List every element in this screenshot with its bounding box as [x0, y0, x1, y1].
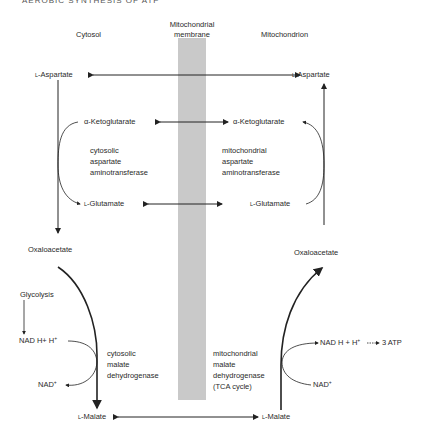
cytosol-glutamate-label: L-Glutamate [84, 199, 124, 209]
mito-nadh-label: NAD H + H+ [320, 338, 360, 348]
mito-aspartate-label: L-Aspartate [292, 70, 330, 80]
mito-malate-label: L-Malate [262, 412, 290, 422]
mito-nad-label: NAD+ [313, 380, 332, 390]
mito-ketoglutarate-label: α-Ketoglutarate [233, 117, 284, 127]
mito-oxaloacetate-label: Oxaloacetate [294, 248, 338, 258]
cytosol-nadh-nad-curve [66, 341, 97, 385]
mito-glutamate-label: L-Glutamate [250, 199, 290, 209]
cytosol-nadh-label: NAD H+ H+ [19, 336, 57, 346]
cytosol-nad-label: NAD+ [38, 380, 57, 390]
cytosolic-aat-enzyme-label: cytosolic aspartate aminotransferase [90, 145, 148, 178]
mitochondrial-aat-enzyme-label: mitochondrial aspartate aminotransferase [222, 145, 280, 178]
mitochondrial-mdh-enzyme-label: mitochondrial malate dehydrogenase (TCA … [213, 348, 265, 392]
cytosol-ketoglutarate-label: α-Ketoglutarate [84, 117, 135, 127]
cytosol-malate-label: L-Malate [78, 412, 106, 422]
cytosolic-aat-curve [58, 122, 80, 204]
cytosol-oxaloacetate-label: Oxaloacetate [28, 245, 72, 255]
mito-nad-nadh-curve [282, 343, 318, 385]
mitochondrial-aat-curve [303, 122, 324, 204]
cytosolic-mdh-enzyme-label: cytosolic malate dehydrogenase [107, 348, 159, 381]
cytosol-aspartate-label: L-Aspartate [35, 70, 73, 80]
glycolysis-label: Glycolysis [20, 290, 54, 300]
cytosol-oxaloacetate-to-malate-arrow [58, 267, 97, 408]
atp-yield-label: 3 ATP [382, 338, 402, 348]
